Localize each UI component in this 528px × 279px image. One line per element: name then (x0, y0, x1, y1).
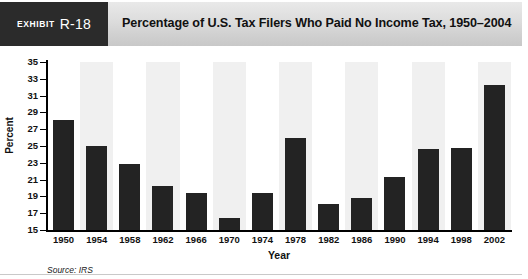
y-axis-tick-label: 35 (16, 57, 38, 67)
y-axis-labels: 3533312927252321191715 (12, 46, 38, 279)
bar-slot (80, 62, 113, 230)
y-axis-tick-label: 21 (16, 175, 38, 185)
y-axis-tick (40, 62, 46, 63)
y-axis-tick (40, 129, 46, 130)
bar (53, 120, 74, 230)
y-axis-tick-label: 25 (16, 141, 38, 151)
exhibit-title-container: Percentage of U.S. Tax Filers Who Paid N… (108, 2, 522, 46)
x-axis-labels: 1950195419581962196619701974197819821986… (47, 234, 511, 245)
bar (451, 148, 472, 230)
bar-slot (279, 62, 312, 230)
bar-slot (312, 62, 345, 230)
bar-series (47, 62, 511, 230)
bar-slot (478, 62, 511, 230)
x-axis-tick-label: 1998 (445, 234, 478, 245)
exhibit-badge: Exhibit R-18 (0, 2, 108, 46)
x-axis-tick-label: 2002 (478, 234, 511, 245)
y-axis-tick-label: 17 (16, 208, 38, 218)
y-axis-tick (40, 112, 46, 113)
bar-slot (146, 62, 179, 230)
x-axis-tick-label: 1974 (246, 234, 279, 245)
y-axis-tick-label: 29 (16, 107, 38, 117)
x-axis-tick-label: 1970 (213, 234, 246, 245)
y-axis-tick-label: 27 (16, 124, 38, 134)
chart-area: Percent 3533312927252321191715 195019541… (0, 46, 522, 279)
y-axis-tick-label: 19 (16, 191, 38, 201)
y-axis-tick (40, 213, 46, 214)
y-axis-tick (40, 96, 46, 97)
y-axis-tick-label: 23 (16, 158, 38, 168)
bar-slot (345, 62, 378, 230)
bottom-rule (0, 274, 522, 275)
x-axis-tick-label: 1954 (80, 234, 113, 245)
y-axis-tick-label: 33 (16, 74, 38, 84)
bar-slot (246, 62, 279, 230)
y-axis-tick (40, 163, 46, 164)
bar (351, 198, 372, 230)
x-axis-tick-label: 1986 (345, 234, 378, 245)
bar (384, 177, 405, 230)
x-axis-tick-label: 1994 (412, 234, 445, 245)
bar (119, 164, 140, 230)
exhibit-figure: Exhibit R-18 Percentage of U.S. Tax File… (0, 0, 528, 279)
x-axis-tick-label: 1982 (312, 234, 345, 245)
bar (418, 149, 439, 230)
bar (86, 146, 107, 230)
page-title: Percentage of U.S. Tax Filers Who Paid N… (122, 16, 511, 32)
bar-slot (445, 62, 478, 230)
y-axis-line (46, 60, 48, 232)
x-axis-tick-label: 1978 (279, 234, 312, 245)
x-axis-tick-label: 1958 (113, 234, 146, 245)
bar-slot (412, 62, 445, 230)
x-axis-tick-label: 1990 (378, 234, 411, 245)
bar (186, 193, 207, 230)
exhibit-badge-word: Exhibit (17, 19, 55, 29)
bar-slot (213, 62, 246, 230)
right-margin (522, 0, 528, 279)
x-axis-tick-label: 1950 (47, 234, 80, 245)
bar (318, 204, 339, 230)
y-axis-tick (40, 230, 46, 231)
y-axis-tick (40, 180, 46, 181)
bar-slot (180, 62, 213, 230)
bar (285, 138, 306, 230)
bar-slot (113, 62, 146, 230)
x-axis-title: Year (47, 249, 511, 261)
x-axis-tick-label: 1962 (146, 234, 179, 245)
y-axis-tick (40, 196, 46, 197)
exhibit-badge-number: R-18 (60, 16, 91, 32)
plot-area (47, 62, 511, 230)
x-axis-line (46, 230, 512, 232)
bar-slot (47, 62, 80, 230)
exhibit-header: Exhibit R-18 Percentage of U.S. Tax File… (0, 2, 522, 46)
y-axis-tick-label: 31 (16, 91, 38, 101)
y-axis-tick-label: 15 (16, 225, 38, 235)
bar-slot (378, 62, 411, 230)
y-axis-tick (40, 79, 46, 80)
bar (152, 186, 173, 230)
bar (484, 85, 505, 230)
y-axis-tick (40, 146, 46, 147)
bar (219, 218, 240, 230)
bar (252, 193, 273, 230)
x-axis-tick-label: 1966 (180, 234, 213, 245)
